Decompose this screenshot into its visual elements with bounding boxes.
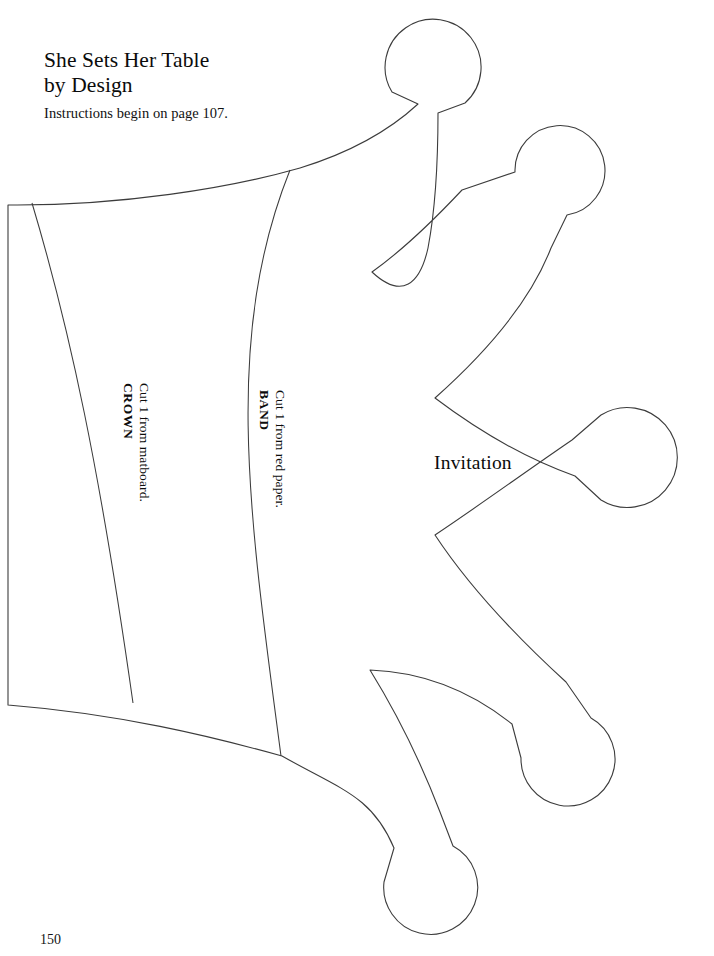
crown-template-drawing xyxy=(0,0,714,956)
page-number: 150 xyxy=(40,932,61,948)
piece-label-crown: CROWN Cut 1 from matboard. xyxy=(119,383,152,502)
page-canvas: She Sets Her Table by Design Instruction… xyxy=(0,0,714,956)
header-block: She Sets Her Table by Design Instruction… xyxy=(44,48,374,122)
instructions-note: Instructions begin on page 107. xyxy=(44,105,374,122)
crown-outline-path xyxy=(8,19,677,934)
invitation-caption: Invitation xyxy=(434,452,512,474)
piece-label-band-name: BAND xyxy=(256,390,272,508)
page-title: She Sets Her Table by Design xyxy=(44,48,374,99)
piece-label-band: BAND Cut 1 from red paper. xyxy=(255,390,288,508)
piece-label-crown-name: CROWN xyxy=(120,383,136,502)
piece-label-crown-note: Cut 1 from matboard. xyxy=(136,383,152,502)
piece-label-band-note: Cut 1 from red paper. xyxy=(272,390,288,508)
